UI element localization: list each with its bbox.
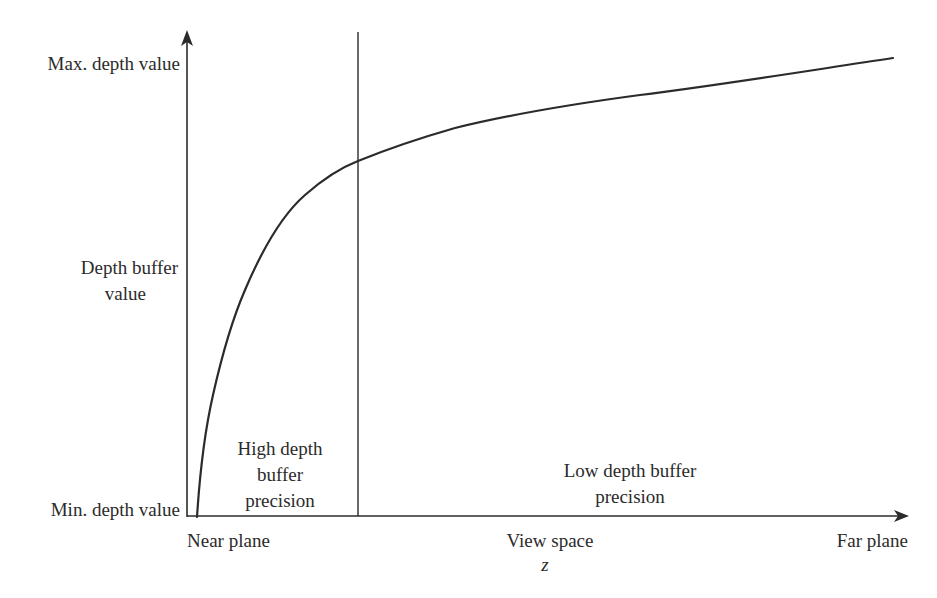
x-near-label: Near plane bbox=[187, 528, 270, 554]
y-min-label: Min. depth value bbox=[20, 497, 180, 523]
y-axis-title-line2: value bbox=[20, 281, 146, 307]
high-precision-label-line2: buffer bbox=[205, 462, 355, 488]
depth-buffer-precision-figure: Max. depth value Depth buffer value Min.… bbox=[0, 0, 937, 598]
x-far-label: Far plane bbox=[780, 528, 908, 554]
x-axis-variable: z bbox=[530, 552, 560, 578]
high-precision-label-line1: High depth bbox=[205, 436, 355, 462]
low-precision-label-line2: precision bbox=[530, 484, 730, 510]
y-max-label: Max. depth value bbox=[20, 51, 180, 77]
x-axis-title: View space bbox=[480, 528, 620, 554]
high-precision-label-line3: precision bbox=[205, 488, 355, 514]
y-axis-title-line1: Depth buffer bbox=[20, 255, 178, 281]
low-precision-label-line1: Low depth buffer bbox=[530, 458, 730, 484]
